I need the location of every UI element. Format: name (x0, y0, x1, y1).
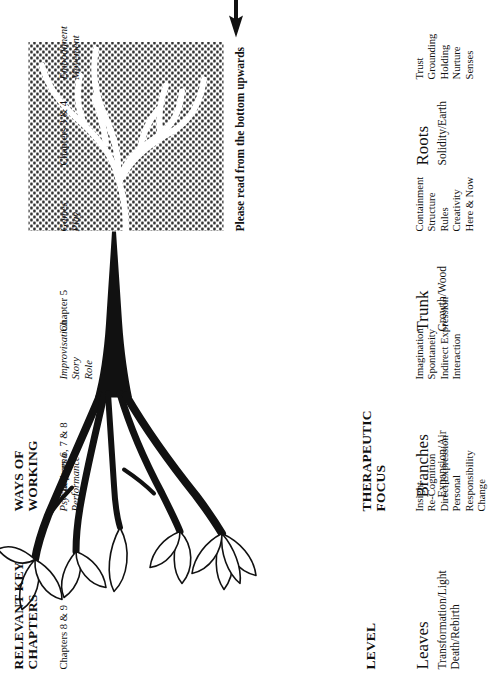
cell-focus-roots: Trust Grounding Holding Nurture Senses (414, 33, 476, 79)
cell-chapters-branches: Chapters 6, 7 & 8 (58, 422, 70, 497)
cell-ways-roots: Embodiment Movement (58, 25, 83, 79)
row-level-trunk: Trunk (414, 290, 432, 331)
column-header-therapeutic-focus: THERAPEUTIC FOCUS (360, 410, 389, 511)
row-level-sub-roots: Solidity/Earth (436, 100, 449, 165)
row-level-leaves: Leaves (414, 621, 432, 669)
cell-ways-trunk: Games Play (58, 202, 83, 231)
row-level-sub-branches: Expansion/Air (436, 430, 449, 497)
column-header-relevant-key-chapters: RELEVANT KEY CHAPTERS (12, 561, 41, 669)
trunk (95, 231, 132, 397)
cell-chapters-leaves: Chapters 8 & 9 (58, 605, 70, 669)
cell-focus-trunk: Containment Structure Rules Creativity H… (414, 176, 476, 231)
row-level-sub-trunk: Growth/Wood (436, 265, 449, 331)
cell-chapters-trunk: Chapter 5 (58, 290, 70, 331)
read-direction-arrow (229, 0, 243, 37)
column-header-ways-of-working: WAYS OF WORKING (12, 440, 41, 511)
row-level-sub-leaves: Transformation/Light Death/Rebirth (436, 570, 462, 669)
row-level-roots: Roots (414, 125, 432, 165)
read-direction-note: Please read from the bottom upwards (234, 46, 246, 231)
row-level-branches: Branches (414, 434, 432, 497)
cell-chapters-roots: Chapters 3 & 4 (58, 101, 70, 165)
column-header-level: LEVEL (364, 622, 378, 669)
